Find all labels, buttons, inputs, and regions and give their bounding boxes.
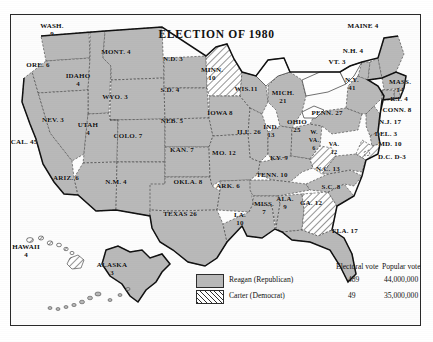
legend-row-reagan: Reagan (Republican) 489 44,000,000	[196, 273, 424, 289]
carter-swatch	[196, 290, 224, 304]
state-label-ga: GA. 12	[300, 199, 322, 207]
state-label-okla: OKLA. 8	[173, 178, 202, 186]
state-label-wis: WIS.11	[234, 85, 257, 93]
legend-electoral-carter: 49	[348, 291, 356, 300]
state-label-ri: R.I. 4	[390, 95, 408, 103]
state-shapes-alaska	[48, 246, 170, 311]
state-label-conn: CONN. 8	[382, 106, 411, 114]
page-title: ELECTION OF 1980	[158, 28, 274, 40]
legend-header-electoral: Electoral vote	[336, 262, 378, 271]
state-label-wva: W.VA.6	[309, 128, 319, 152]
state-label-ala: ALA.9	[276, 195, 293, 211]
state-label-mont: MONT. 4	[101, 48, 131, 56]
state-label-nm: N.M. 4	[105, 178, 127, 186]
legend-electoral-reagan: 489	[348, 275, 359, 284]
state-label-sc: S.C. 8	[322, 183, 341, 191]
election-map-page: ELECTION OF 1980 WASH.9 ORE. 6 IDAHO4 MO…	[0, 0, 433, 342]
state-label-nd: N.D. 3	[163, 55, 183, 63]
state-label-fla: FLA. 17	[332, 227, 358, 235]
state-label-la: LA.10	[234, 211, 246, 227]
state-label-ohio: OHIO25	[287, 118, 307, 134]
state-label-tenn: TENN. 10	[256, 171, 288, 179]
state-label-nev: NEV. 3	[42, 116, 64, 124]
reagan-swatch	[196, 274, 224, 288]
legend-label-reagan: Reagan (Republican)	[229, 275, 293, 284]
state-label-penn: PENN. 27	[311, 109, 342, 117]
state-label-wash: WASH.9	[40, 22, 63, 38]
state-label-va: VA.12	[329, 140, 339, 156]
state-label-utah: UTAH4	[78, 121, 99, 137]
state-label-wyo: WYO. 3	[102, 93, 128, 101]
legend-label-carter: Carter (Democrat)	[229, 291, 285, 300]
state-label-kan: KAN. 7	[170, 146, 194, 154]
state-shape-colo	[110, 119, 165, 162]
state-label-ill: ILL. 26	[237, 128, 261, 136]
state-label-nj: N.J. 17	[379, 118, 401, 126]
state-label-hawaii: HAWAII4	[12, 243, 40, 259]
state-shape-tenn	[250, 180, 310, 196]
state-label-minn: MINN.10	[201, 66, 223, 82]
state-label-alaska: ALASKA3	[97, 261, 127, 277]
aleutian-islands	[48, 288, 130, 311]
state-label-miss: MISS.7	[254, 200, 274, 216]
state-label-nh: N.H. 4	[343, 47, 363, 55]
state-shape-maine	[378, 36, 404, 78]
state-label-iowa: IOWA 8	[207, 109, 233, 117]
state-label-idaho: IDAHO4	[66, 72, 91, 88]
state-label-ark: ARK. 6	[216, 182, 240, 190]
state-label-ky: KY. 9	[270, 154, 288, 162]
state-label-sd: S.D. 4	[161, 86, 180, 94]
state-label-cal: CAL. 45	[11, 138, 38, 146]
state-label-ny: N.Y.41	[345, 76, 359, 92]
state-label-colo: COLO. 7	[113, 132, 142, 140]
state-label-del: DEL. 3	[375, 130, 398, 138]
state-label-texas: TEXAS 26	[163, 210, 197, 218]
state-label-mich: MICH.21	[272, 89, 295, 105]
state-label-ind: IND.13	[263, 123, 278, 139]
state-shape-ariz	[74, 162, 117, 211]
legend-header-popular: Popular vote	[382, 262, 421, 271]
state-label-dc: D.C. D-3	[378, 153, 406, 161]
state-label-mass: MASS.14	[389, 78, 411, 94]
map-legend: Electoral vote Popular vote Reagan (Repu…	[196, 262, 424, 305]
legend-popular-carter: 35,000,000	[384, 291, 418, 300]
state-label-maine: MAINE 4	[348, 22, 379, 30]
state-label-mo: MO. 12	[212, 149, 236, 157]
state-label-ariz: ARIZ. 6	[53, 174, 79, 182]
state-label-md: MD. 10	[378, 140, 401, 148]
state-label-nc: N.C. 13	[316, 165, 340, 173]
legend-row-carter: Carter (Democrat) 49 35,000,000	[196, 289, 424, 305]
state-label-neb: NEB. 5	[161, 117, 184, 125]
state-label-vt: VT. 3	[328, 58, 345, 66]
legend-popular-reagan: 44,000,000	[384, 275, 418, 284]
state-label-ore: ORE. 6	[26, 61, 49, 69]
